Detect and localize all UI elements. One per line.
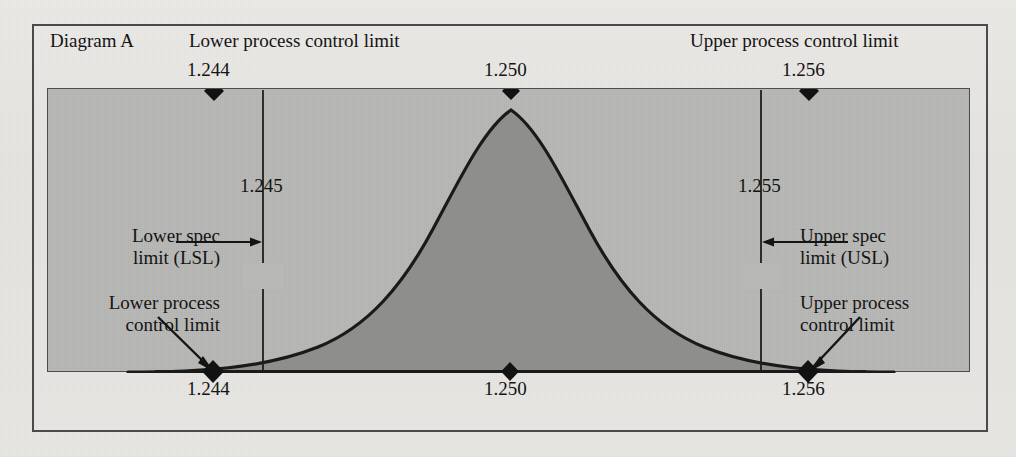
- upper-process-control-limit-title: Upper process control limit: [690, 30, 898, 52]
- top-axis-value-lower: 1.244: [187, 59, 230, 81]
- upper-spec-limit-label-line2: limit (USL): [800, 247, 950, 269]
- lower-process-control-limit-title: Lower process control limit: [189, 30, 400, 52]
- top-axis-value-upper: 1.256: [782, 59, 825, 81]
- upper-spec-limit-label: Upper spec limit (USL): [800, 225, 950, 269]
- upper-process-control-limit-label-line1: Upper process: [800, 292, 960, 314]
- diagram-label: Diagram A: [50, 30, 134, 52]
- lower-spec-limit-value: 1.245: [240, 175, 283, 197]
- lower-spec-limit-label-line1: Lower spec: [100, 225, 220, 247]
- upper-spec-limit-value: 1.255: [738, 175, 781, 197]
- lower-process-control-limit-label-line2: control limit: [85, 314, 220, 336]
- lower-spec-limit-label-line2: limit (LSL): [100, 247, 220, 269]
- bottom-axis-value-lower: 1.244: [187, 378, 230, 400]
- bottom-axis-value-mean: 1.250: [484, 378, 527, 400]
- lower-spec-limit-label: Lower spec limit (LSL): [100, 225, 220, 269]
- top-axis-value-mean: 1.250: [484, 59, 527, 81]
- upper-process-control-limit-label: Upper process control limit: [800, 292, 960, 336]
- lower-process-control-limit-label-line1: Lower process: [85, 292, 220, 314]
- lower-process-control-limit-label: Lower process control limit: [85, 292, 220, 336]
- bottom-axis-value-upper: 1.256: [782, 378, 825, 400]
- upper-process-control-limit-label-line2: control limit: [800, 314, 960, 336]
- upper-spec-limit-label-line1: Upper spec: [800, 225, 950, 247]
